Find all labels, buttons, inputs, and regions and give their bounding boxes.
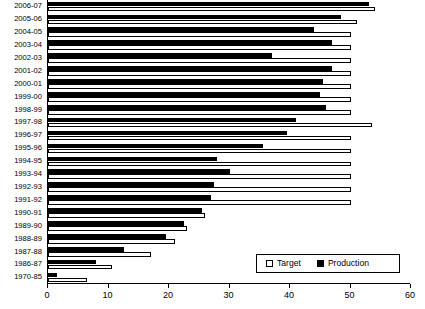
category-label: 1986-87 [14, 260, 42, 268]
bar-production [48, 15, 341, 20]
tick-mark [229, 284, 230, 288]
bar-row [48, 116, 411, 129]
category-label: 1998-99 [14, 106, 42, 114]
tick-mark [108, 284, 109, 288]
category-label: 1994-95 [14, 157, 42, 165]
bar-row [48, 77, 411, 90]
tick-label: 50 [344, 290, 354, 300]
category-label: 1989-90 [14, 222, 42, 230]
bar-production [48, 221, 184, 226]
bar-production [48, 131, 287, 136]
category-label: 1995-96 [14, 144, 42, 152]
bar-row [48, 271, 411, 284]
category-axis-labels: 2006-072005-062004-052003-042002-032001-… [0, 0, 45, 284]
bar-row [48, 39, 411, 52]
bar-target [48, 84, 351, 89]
bar-production [48, 118, 296, 123]
bar-production [48, 105, 326, 110]
bar-target [48, 149, 351, 154]
legend-entry-target: Target [266, 259, 301, 268]
bar-row [48, 232, 411, 245]
category-label: 1999-00 [14, 93, 42, 101]
bar-target [48, 213, 205, 218]
category-label: 1988-89 [14, 235, 42, 243]
bar-target [48, 278, 87, 283]
bar-target [48, 71, 351, 76]
bar-rows [48, 0, 411, 284]
bar-production [48, 273, 57, 278]
bar-target [48, 32, 351, 37]
category-label: 1990-91 [14, 209, 42, 217]
category-label: 1993-94 [14, 170, 42, 178]
bar-row [48, 52, 411, 65]
tick-mark [350, 284, 351, 288]
bar-production [48, 157, 217, 162]
bar-production [48, 144, 263, 149]
bar-production [48, 40, 332, 45]
bar-row [48, 90, 411, 103]
bar-row [48, 26, 411, 39]
legend-entry-production: Production [317, 259, 369, 268]
bar-target [48, 162, 351, 167]
category-label: 2005-06 [14, 15, 42, 23]
bar-target [48, 187, 351, 192]
tick-label: 40 [284, 290, 294, 300]
tick-label: 30 [223, 290, 233, 300]
bar-production [48, 260, 96, 265]
tick-mark [410, 284, 411, 288]
tick-label: 60 [405, 290, 415, 300]
bar-row [48, 168, 411, 181]
bar-row [48, 129, 411, 142]
category-label: 2006-07 [14, 2, 42, 10]
bar-row [48, 219, 411, 232]
bar-chart: 2006-072005-062004-052003-042002-032001-… [0, 0, 425, 309]
category-label: 2001-02 [14, 67, 42, 75]
bar-row [48, 207, 411, 220]
bar-row [48, 194, 411, 207]
bar-target [48, 136, 351, 141]
category-label: 1996-97 [14, 131, 42, 139]
bar-production [48, 27, 314, 32]
bar-production [48, 247, 124, 252]
category-label: 1970-85 [14, 273, 42, 281]
bar-production [48, 234, 166, 239]
category-label: 2000-01 [14, 80, 42, 88]
bar-target [48, 200, 351, 205]
bar-target [48, 123, 372, 128]
bar-target [48, 7, 375, 12]
bar-row [48, 13, 411, 26]
bar-target [48, 45, 351, 50]
category-label: 1992-93 [14, 183, 42, 191]
tick-mark [168, 284, 169, 288]
tick-label: 10 [102, 290, 112, 300]
bar-production [48, 208, 202, 213]
bar-row [48, 65, 411, 78]
tick-mark [289, 284, 290, 288]
bar-target [48, 58, 351, 63]
tick-label: 20 [163, 290, 173, 300]
tick-label: 0 [44, 290, 49, 300]
bar-row [48, 155, 411, 168]
bar-production [48, 195, 211, 200]
bar-production [48, 2, 369, 7]
chart-legend: Target Production [256, 254, 400, 273]
legend-swatch-production-icon [317, 260, 324, 267]
category-label: 2003-04 [14, 41, 42, 49]
bar-row [48, 181, 411, 194]
bar-target [48, 226, 187, 231]
legend-label-target: Target [277, 259, 301, 268]
bar-target [48, 110, 351, 115]
category-label: 2002-03 [14, 54, 42, 62]
category-label: 2004-05 [14, 28, 42, 36]
bar-production [48, 66, 332, 71]
tick-mark [47, 284, 48, 288]
bar-target [48, 239, 175, 244]
bar-row [48, 0, 411, 13]
category-label: 1997-98 [14, 118, 42, 126]
plot-area [47, 0, 410, 284]
bar-target [48, 265, 112, 270]
bar-target [48, 97, 351, 102]
bar-production [48, 79, 323, 84]
bar-row [48, 142, 411, 155]
bar-production [48, 92, 320, 97]
